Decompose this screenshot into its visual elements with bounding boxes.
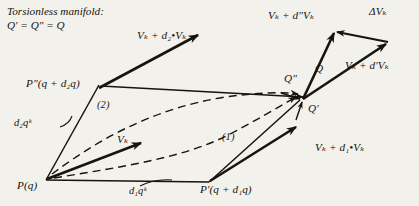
label-point-p: P(q) <box>17 180 37 192</box>
label-path-2: (2) <box>97 99 110 110</box>
label-vector-vk-plus-d1vk: Vₖ + d₁•Vₖ <box>315 142 364 154</box>
vector-vk-plus-d2vk <box>99 35 198 88</box>
label-increment-d1qk: d₁qᵏ <box>129 185 147 196</box>
torsionless-manifold-figure: Torsionless manifold: Q′ = Q″ = Q Vₖ + d… <box>0 0 419 206</box>
label-point-p-double-prime: P″(q + d₂q) <box>26 78 80 90</box>
label-path-1: (1) <box>222 131 235 142</box>
figure-title: Torsionless manifold: Q′ = Q″ = Q <box>7 4 104 33</box>
corner-indicator-q-prime <box>296 102 302 120</box>
label-corner-q-double-prime: Q″ <box>284 73 297 85</box>
dashed-path-1 <box>54 97 296 178</box>
edge-p-to-pdoubleprime <box>46 85 99 180</box>
label-vector-vk-plus-dppvk: Vₖ + d″Vₖ <box>268 10 314 22</box>
vector-delta-vk <box>337 32 388 42</box>
title-line-2: Q′ = Q″ = Q <box>7 18 104 32</box>
label-vector-vk-plus-d2vk: Vₖ + d₂•Vₖ <box>137 30 186 42</box>
label-point-p-prime: P′(q + d₁q) <box>200 184 252 196</box>
label-vector-delta-vk: ΔVₖ <box>369 6 387 18</box>
edge-pdoubleprime-to-corner <box>101 86 303 97</box>
label-increment-d2qk: d₂qᵏ <box>14 117 32 128</box>
vector-vk-at-p <box>47 143 141 179</box>
label-vector-vk: Vₖ <box>117 134 128 146</box>
label-corner-q: Q <box>315 63 323 75</box>
title-line-1: Torsionless manifold: <box>7 4 104 18</box>
leader-d2qk <box>60 116 72 127</box>
label-vector-vk-plus-dpvk: Vₖ + d′Vₖ <box>345 60 389 72</box>
edge-p-to-pprime <box>46 180 209 182</box>
label-corner-q-prime: Q′ <box>308 103 319 115</box>
